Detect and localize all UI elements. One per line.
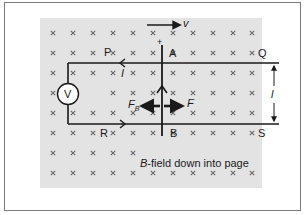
- circuit-drawing: [0, 0, 307, 215]
- point-r-label: R: [100, 128, 108, 139]
- point-q-label: Q: [258, 48, 267, 59]
- length-label: l: [271, 89, 273, 100]
- point-b-label: B: [170, 128, 177, 139]
- field-caption: B-field down into page: [140, 158, 249, 169]
- magnetic-force-label: FB: [128, 99, 139, 112]
- rod-positive-sign: +: [157, 38, 162, 47]
- point-a-label: A: [169, 48, 176, 59]
- current-label: I: [121, 68, 124, 79]
- point-p-label: P: [104, 47, 111, 58]
- point-s-label: S: [258, 128, 265, 139]
- applied-force-label: F: [187, 98, 194, 109]
- velocity-label: v: [183, 18, 189, 29]
- voltmeter-label: V: [64, 89, 71, 100]
